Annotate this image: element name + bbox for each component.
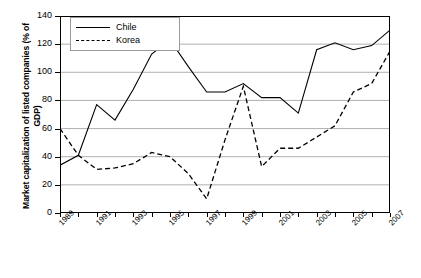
y-tick-label: 40 bbox=[26, 151, 52, 161]
x-tick-mark bbox=[78, 213, 79, 217]
x-tick-mark bbox=[115, 213, 116, 217]
x-tick-mark bbox=[372, 213, 373, 217]
y-tick-mark bbox=[55, 129, 60, 130]
x-tick-mark bbox=[188, 213, 189, 217]
y-tick-label: 140 bbox=[26, 10, 52, 20]
y-tick-label: 0 bbox=[26, 207, 52, 217]
x-tick-mark bbox=[335, 213, 336, 217]
x-tick-mark bbox=[298, 213, 299, 217]
y-tick-mark bbox=[55, 16, 60, 17]
y-tick-label: 100 bbox=[26, 66, 52, 76]
legend-label-chile: Chile bbox=[116, 21, 137, 34]
x-tick-mark bbox=[152, 213, 153, 217]
y-tick-mark bbox=[55, 44, 60, 45]
series-lines bbox=[60, 30, 390, 199]
y-tick-label: 120 bbox=[26, 38, 52, 48]
chart-legend: Chile Korea bbox=[70, 17, 180, 51]
series-line-korea bbox=[60, 51, 390, 199]
y-tick-label: 20 bbox=[26, 179, 52, 189]
legend-swatch-korea bbox=[76, 40, 110, 41]
y-tick-label: 60 bbox=[26, 123, 52, 133]
chart-figure: Market capitalization of listed companie… bbox=[0, 0, 421, 278]
legend-item-chile: Chile bbox=[76, 21, 137, 34]
y-tick-mark bbox=[55, 157, 60, 158]
y-tick-mark bbox=[55, 72, 60, 73]
y-tick-mark bbox=[55, 100, 60, 101]
legend-item-korea: Korea bbox=[76, 34, 140, 47]
legend-swatch-chile bbox=[76, 27, 110, 28]
y-tick-label: 80 bbox=[26, 94, 52, 104]
legend-label-korea: Korea bbox=[116, 34, 140, 47]
y-tick-mark bbox=[55, 185, 60, 186]
x-tick-mark bbox=[225, 213, 226, 217]
x-tick-mark bbox=[262, 213, 263, 217]
